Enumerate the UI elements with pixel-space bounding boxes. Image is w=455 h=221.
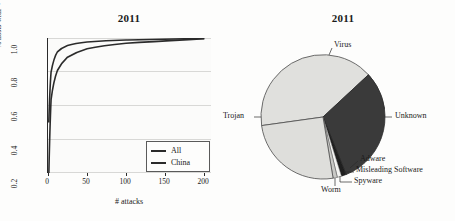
legend-label-all: All bbox=[171, 146, 181, 156]
legend-label-china: China bbox=[171, 158, 190, 168]
line-chart-y-axis-label: % hosts with <= x attacks bbox=[0, 0, 3, 48]
figure-root: 2011 % hosts with <= x attacks 1.0 0.8 bbox=[0, 0, 455, 221]
curve-all bbox=[49, 38, 205, 122]
pie-label-spyware: Spyware bbox=[354, 176, 382, 185]
pie-label-unknown: Unknown bbox=[395, 111, 427, 120]
pie-label-virus: Virus bbox=[334, 40, 351, 49]
line-chart-title: 2011 bbox=[47, 12, 211, 24]
leader-line-spyware bbox=[340, 176, 352, 182]
xtick-mark-100 bbox=[126, 173, 127, 176]
ytick-label-0.4: 0.4 bbox=[10, 140, 19, 162]
xtick-label-50: 50 bbox=[74, 177, 98, 186]
leader-line-virus bbox=[329, 48, 332, 55]
line-chart-legend: All China bbox=[146, 141, 210, 172]
line-chart-x-axis-label: # attacks bbox=[47, 197, 211, 206]
xtick-label-200: 200 bbox=[191, 177, 215, 186]
ytick-label-0.8: 0.8 bbox=[10, 72, 19, 94]
pie-label-trojan: Trojan bbox=[223, 111, 244, 120]
pie-label-misleading-software: Misleading Software bbox=[356, 165, 423, 174]
xtick-label-150: 150 bbox=[152, 177, 176, 186]
ytick-label-0.2: 0.2 bbox=[10, 173, 19, 195]
pie-slice-worm bbox=[262, 117, 334, 179]
ytick-label-1.0: 1.0 bbox=[10, 39, 19, 61]
xtick-mark-50 bbox=[87, 173, 88, 176]
pie-label-adware: Adware bbox=[360, 154, 385, 163]
xtick-label-0: 0 bbox=[35, 177, 59, 186]
ytick-label-0.6: 0.6 bbox=[10, 106, 19, 128]
xtick-mark-200 bbox=[204, 173, 205, 176]
line-chart-panel: 2011 % hosts with <= x attacks 1.0 0.8 bbox=[0, 0, 228, 221]
xtick-label-100: 100 bbox=[113, 177, 137, 186]
legend-swatch-all bbox=[151, 150, 166, 152]
pie-label-worm: Worm bbox=[321, 185, 341, 194]
legend-item-all: All bbox=[151, 145, 209, 157]
xtick-mark-150 bbox=[165, 173, 166, 176]
xtick-mark-0 bbox=[48, 173, 49, 176]
pie-chart-graphic: Virus Unknown Trojan Worm Adware Mislead… bbox=[228, 0, 455, 221]
legend-swatch-china bbox=[151, 162, 166, 164]
legend-item-china: China bbox=[151, 157, 209, 169]
pie-chart-panel: 2011 bbox=[228, 0, 455, 221]
